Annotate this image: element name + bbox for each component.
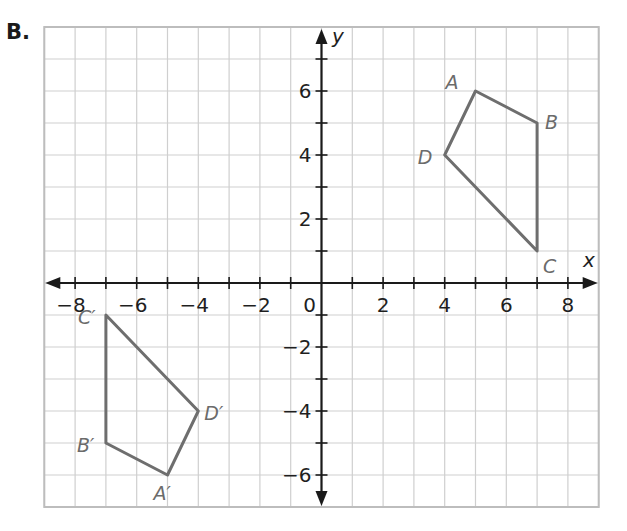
quadrilateral-abcd bbox=[445, 91, 537, 251]
vertex-label: D′ bbox=[204, 402, 224, 424]
y-tick-label: −4 bbox=[282, 399, 311, 423]
y-tick-label: −6 bbox=[282, 463, 311, 487]
vertex-label: A′ bbox=[152, 482, 172, 504]
axes bbox=[45, 29, 597, 506]
x-axis-label: x bbox=[582, 248, 595, 272]
x-tick-label: 2 bbox=[377, 293, 390, 317]
vertex-label: D bbox=[418, 146, 433, 168]
vertex-label: B′ bbox=[77, 434, 95, 456]
x-tick-label: 0 bbox=[303, 293, 316, 317]
y-tick-label: −2 bbox=[282, 335, 311, 359]
vertex-label: A bbox=[444, 71, 459, 93]
x-tick-label: −2 bbox=[241, 293, 270, 317]
x-tick-label: 8 bbox=[562, 293, 575, 317]
y-axis-arrow-up-icon bbox=[316, 29, 328, 44]
vertex-label: C bbox=[543, 255, 557, 277]
vertex-labels: ABCDA′B′C′D′ bbox=[77, 71, 558, 504]
coordinate-plane: −8−6−4−202468642−2−4−6 ABCDA′B′C′D′ x y bbox=[0, 0, 627, 531]
x-tick-label: −4 bbox=[180, 293, 209, 317]
x-tick-label: −6 bbox=[118, 293, 147, 317]
x-tick-label: 4 bbox=[438, 293, 451, 317]
y-tick-label: 4 bbox=[299, 143, 312, 167]
y-tick-label: 2 bbox=[299, 207, 312, 231]
quadrilateral-abcd-prime bbox=[106, 315, 198, 475]
y-axis-label: y bbox=[331, 24, 345, 48]
x-axis-arrow-left-icon bbox=[45, 277, 60, 289]
y-axis-arrow-down-icon bbox=[316, 491, 328, 506]
x-axis-arrow-right-icon bbox=[583, 277, 598, 289]
x-tick-label: 6 bbox=[500, 293, 513, 317]
vertex-label: B bbox=[545, 111, 558, 133]
y-tick-label: 6 bbox=[299, 79, 312, 103]
vertex-label: C′ bbox=[78, 306, 96, 328]
